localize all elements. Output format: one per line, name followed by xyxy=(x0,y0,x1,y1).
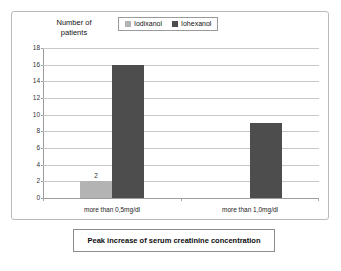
bar-iodixanol-0: 2 xyxy=(80,181,112,198)
y-tick-label-4: 4 xyxy=(36,161,40,168)
y-tick-mark-12 xyxy=(41,98,43,99)
y-tick-mark-4 xyxy=(41,165,43,166)
chart-legend: Iodixanol Iohexanol xyxy=(118,17,218,31)
y-tick-label-16: 16 xyxy=(33,61,40,68)
legend-item-iodixanol: Iodixanol xyxy=(125,20,162,28)
y-tick-label-10: 10 xyxy=(33,111,40,118)
y-tick-label-2: 2 xyxy=(36,178,40,185)
gridline-16 xyxy=(43,65,319,66)
legend-label-iohexanol: Iohexanol xyxy=(181,20,211,28)
gridline-14 xyxy=(43,81,319,82)
y-tick-label-8: 8 xyxy=(36,128,40,135)
x-category-label-1: more than 1,0mg/dl xyxy=(222,206,278,214)
bar-value-label: 2 xyxy=(94,172,98,179)
caption-box: Peak increase of serum creatinine concen… xyxy=(73,229,275,252)
y-tick-mark-14 xyxy=(41,81,43,82)
y-tick-mark-8 xyxy=(41,131,43,132)
y-axis-title: Number of patients xyxy=(31,18,117,37)
x-axis: more than 0,5mg/dlmore than 1,0mg/dl xyxy=(43,198,319,220)
y-tick-label-14: 14 xyxy=(33,78,40,85)
legend-swatch-iodixanol xyxy=(125,21,131,27)
chart-frame: Number of patients Iodixanol Iohexanol 0… xyxy=(11,11,329,220)
bar-iohexanol-1 xyxy=(250,123,282,198)
y-tick-label-6: 6 xyxy=(36,145,40,152)
x-tick-separator-2 xyxy=(318,198,319,201)
y-tick-label-0: 0 xyxy=(36,195,40,202)
caption-text: Peak increase of serum creatinine concen… xyxy=(88,236,261,245)
plot-area: 024681012141618 2 xyxy=(43,48,319,198)
gridline-10 xyxy=(43,115,319,116)
y-tick-mark-2 xyxy=(41,181,43,182)
legend-item-iohexanol: Iohexanol xyxy=(172,20,211,28)
gridline-18 xyxy=(43,48,319,49)
legend-label-iodixanol: Iodixanol xyxy=(134,20,162,28)
y-tick-label-18: 18 xyxy=(33,45,40,52)
x-tick-separator-1 xyxy=(181,198,182,201)
bar-iohexanol-0 xyxy=(112,65,144,198)
y-axis-line xyxy=(43,48,44,198)
y-tick-label-12: 12 xyxy=(33,95,40,102)
y-tick-mark-16 xyxy=(41,65,43,66)
y-tick-mark-6 xyxy=(41,148,43,149)
y-tick-mark-18 xyxy=(41,48,43,49)
legend-swatch-iohexanol xyxy=(172,21,178,27)
plot-inner: 024681012141618 2 xyxy=(43,48,319,198)
gridline-12 xyxy=(43,98,319,99)
x-category-label-0: more than 0,5mg/dl xyxy=(84,206,140,214)
x-tick-separator-0 xyxy=(43,198,44,201)
y-tick-mark-10 xyxy=(41,115,43,116)
